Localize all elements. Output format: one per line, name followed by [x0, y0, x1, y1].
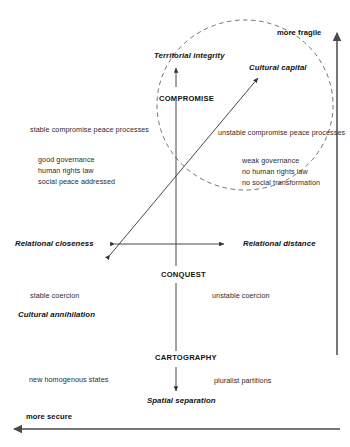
cartography-label: CARTOGRAPHY	[155, 353, 217, 362]
relational-distance-label: Relational distance	[243, 239, 316, 249]
cultural-annihilation-label: Cultural annihilation	[18, 310, 95, 320]
weak-governance-label: weak governance	[242, 156, 299, 165]
relational-closeness-label: Relational closeness	[15, 239, 94, 249]
diagram-canvas: more fragile Territorial integrity Cultu…	[0, 0, 350, 447]
compromise-label: COMPROMISE	[159, 94, 214, 103]
no-social-transformation-label: no social transformation	[242, 178, 320, 187]
unstable-compromise-label: unstable compromise peace processes	[218, 128, 345, 137]
pluralist-partitions-label: pluralist partitions	[214, 376, 271, 385]
conquest-label: CONQUEST	[161, 270, 206, 279]
human-rights-law-label: human rights law	[38, 166, 93, 175]
social-peace-addressed-label: social peace addressed	[38, 177, 115, 186]
more-fragile-label: more fragile	[277, 28, 321, 37]
stable-compromise-label: stable compromise peace processes	[30, 125, 149, 134]
stable-coercion-label: stable coercion	[30, 291, 79, 300]
good-governance-label: good governance	[38, 155, 95, 164]
more-secure-label: more secure	[26, 412, 72, 421]
cultural-capital-label: Cultural capital	[249, 63, 307, 73]
unstable-coercion-label: unstable coercion	[212, 291, 270, 300]
new-homogenous-states-label: new homogenous states	[29, 375, 108, 384]
territorial-integrity-label: Territorial integrity	[154, 51, 225, 61]
no-human-rights-law-label: no human rights law	[242, 167, 308, 176]
spatial-separation-label: Spatial separation	[147, 396, 216, 406]
closeness-to-cultural-capital-arrow	[110, 78, 258, 255]
